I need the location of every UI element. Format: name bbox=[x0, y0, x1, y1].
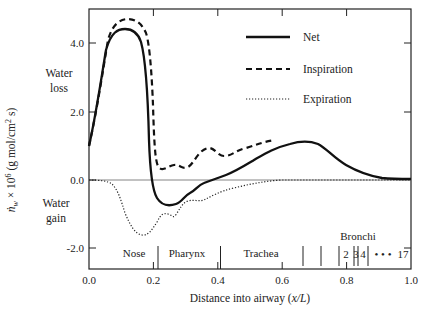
region-pharynx-label: Pharynx bbox=[169, 247, 206, 259]
x-tick-0: 0.0 bbox=[82, 274, 96, 286]
legend: Net Inspiration Expiration bbox=[246, 31, 353, 106]
water-gain-label-line1: Water bbox=[42, 197, 69, 209]
legend-expiration-label: Expiration bbox=[303, 93, 352, 106]
x-tick-06: 0.6 bbox=[275, 274, 289, 286]
region-nose-label: Nose bbox=[123, 247, 146, 259]
bronchi-gen-3: 3 bbox=[353, 248, 359, 260]
bronchi-gen-17: 17 bbox=[398, 248, 410, 260]
water-loss-label-line1: Water bbox=[45, 67, 72, 79]
y-tick-0: 0.0 bbox=[70, 174, 84, 186]
bronchi-label: Bronchi bbox=[340, 230, 375, 242]
region-trachea-label: Trachea bbox=[243, 247, 278, 259]
chart-canvas: 4.0 2.0 0.0 -2.0 0.0 0.2 0.4 0.6 0.8 1.0… bbox=[0, 0, 427, 317]
x-tick-08: 0.8 bbox=[340, 274, 354, 286]
water-gain-label-line2: gain bbox=[46, 212, 66, 225]
y-ticks-right bbox=[404, 43, 411, 248]
x-ticks-bottom bbox=[153, 262, 346, 269]
legend-inspiration-label: Inspiration bbox=[303, 63, 353, 76]
water-loss-label-line2: loss bbox=[50, 82, 68, 94]
bronchi-gen-dots: • • • bbox=[374, 248, 391, 260]
bronchi-gen-2: 2 bbox=[343, 248, 349, 260]
x-ticks-top bbox=[153, 9, 346, 16]
inspiration-curve bbox=[89, 19, 275, 169]
x-tick-04: 0.4 bbox=[211, 274, 225, 286]
expiration-curve bbox=[89, 180, 411, 235]
y-tick-neg2: -2.0 bbox=[67, 242, 85, 254]
x-tick-1: 1.0 bbox=[404, 274, 418, 286]
net-curve bbox=[89, 29, 411, 205]
y-tick-2: 2.0 bbox=[70, 106, 84, 118]
x-axis-title: Distance into airway (x/L) bbox=[190, 292, 311, 305]
y-axis-title: ṅw × 106 (g mol/cm2 s) bbox=[4, 108, 20, 213]
y-tick-4: 4.0 bbox=[70, 37, 84, 49]
bronchi-gen-4: 4 bbox=[360, 248, 366, 260]
x-tick-02: 0.2 bbox=[147, 274, 161, 286]
legend-net-label: Net bbox=[303, 31, 320, 43]
